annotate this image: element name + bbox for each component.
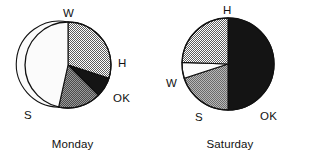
monday-slice-s (16, 21, 68, 107)
monday-label-w: W (63, 8, 74, 20)
monday-label-h: H (118, 58, 127, 70)
saturday-label-s: S (195, 112, 203, 124)
saturday-slice-w (182, 18, 228, 64)
monday-label-ok: OK (113, 93, 130, 105)
saturday-caption: Saturday (155, 139, 305, 151)
saturday-panel: H W S OK Saturday (155, 0, 310, 165)
monday-label-s: S (24, 110, 32, 122)
monday-panel: W H OK S Monday (0, 0, 155, 165)
saturday-label-w: W (166, 78, 177, 90)
saturday-slice-h (228, 18, 274, 110)
saturday-label-ok: OK (260, 111, 277, 123)
pie-chart-figure: W H OK S Monday (0, 0, 310, 165)
monday-caption: Monday (0, 139, 145, 151)
saturday-label-h: H (223, 5, 232, 17)
